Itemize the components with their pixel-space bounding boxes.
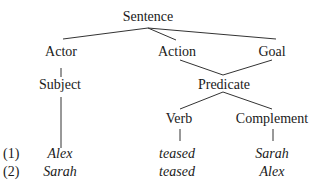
example-1-verb: teased (159, 146, 195, 162)
edge-predicate-verb (180, 92, 223, 109)
node-actor: Actor (45, 44, 77, 60)
edge-action-predicate (180, 60, 223, 75)
node-predicate: Predicate (198, 77, 250, 93)
edge-sentence-actor (63, 28, 148, 39)
example-2-verb: teased (159, 164, 195, 180)
example-number-2: (2) (3, 164, 19, 180)
edge-goal-predicate (223, 60, 272, 75)
example-1-complement: Sarah (255, 146, 288, 162)
node-complement: Complement (236, 111, 308, 127)
example-2-subject: Sarah (43, 164, 76, 180)
edge-sentence-goal (148, 28, 276, 39)
tree-edges (0, 0, 317, 191)
node-action: Action (158, 44, 196, 60)
node-goal: Goal (258, 44, 285, 60)
node-subject: Subject (39, 77, 81, 93)
node-sentence: Sentence (123, 9, 174, 25)
edge-predicate-complement (223, 92, 272, 109)
example-number-1: (1) (3, 146, 19, 162)
syntax-tree-diagram: Sentence Actor Action Goal Subject Predi… (0, 0, 317, 191)
example-1-subject: Alex (48, 146, 73, 162)
example-2-complement: Alex (260, 164, 285, 180)
node-verb: Verb (166, 111, 192, 127)
